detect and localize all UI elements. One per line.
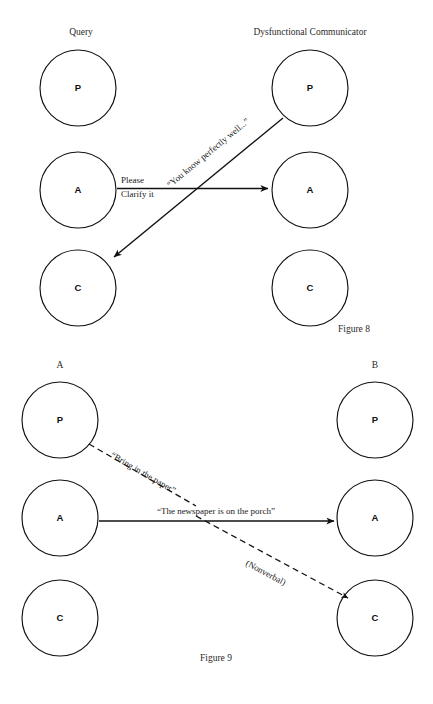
figure-8-left-column-header: Query xyxy=(69,27,93,37)
figure-8-transaction-stimulus-label-line-2: Clarify it xyxy=(121,189,154,199)
figure-9-transaction-nonverbal-child-label: (Nonverbal) xyxy=(244,558,288,587)
figure-8-ego-state-right-adult[interactable]: A xyxy=(272,152,348,228)
figure-9-left-column-header: A xyxy=(57,360,64,370)
figure-8-transaction-stimulus-label-line-1: Please xyxy=(121,175,144,185)
figure-8: Query Dysfunctional Communicator P A C P xyxy=(40,27,370,334)
ego-letter: P xyxy=(75,82,82,93)
ego-letter: P xyxy=(372,414,379,425)
ego-letter: C xyxy=(75,282,82,293)
diagram-page: Query Dysfunctional Communicator P A C P xyxy=(0,0,433,704)
figure-8-ego-state-right-child[interactable]: C xyxy=(272,250,348,326)
figure-8-right-column-header: Dysfunctional Communicator xyxy=(253,27,367,37)
ego-letter: A xyxy=(372,512,379,523)
ego-letter: C xyxy=(307,282,314,293)
figure-8-ego-state-right-parent[interactable]: P xyxy=(272,50,348,126)
figure-9-transaction-ulterior-parent-label: “Bring in the paper” xyxy=(109,450,177,495)
figure-9-ego-state-left-parent[interactable]: P xyxy=(22,382,98,458)
ego-letter: A xyxy=(307,184,314,195)
ego-letter: P xyxy=(57,414,64,425)
figure-8-ego-state-left-parent[interactable]: P xyxy=(40,50,116,126)
figure-9-caption: Figure 9 xyxy=(200,653,232,663)
figure-8-transaction-crossed-response-label: “You know perfectly well...” xyxy=(165,116,251,190)
figure-9-right-column-header: B xyxy=(372,360,378,370)
figures-canvas: Query Dysfunctional Communicator P A C P xyxy=(0,0,433,704)
figure-8-transaction-crossed-response-arrow[interactable] xyxy=(114,118,283,257)
figure-8-caption: Figure 8 xyxy=(338,324,370,334)
ego-letter: A xyxy=(57,512,64,523)
ego-letter: A xyxy=(75,184,82,195)
figure-9-ego-state-left-child[interactable]: C xyxy=(22,580,98,656)
figure-9-ego-state-right-child[interactable]: C xyxy=(337,580,413,656)
figure-9: A B P A C P A xyxy=(22,360,413,663)
figure-8-ego-state-left-adult[interactable]: A xyxy=(40,152,116,228)
figure-9-ego-state-left-adult[interactable]: A xyxy=(22,480,98,556)
figure-8-ego-state-left-child[interactable]: C xyxy=(40,250,116,326)
ego-letter: P xyxy=(307,82,314,93)
figure-9-ego-state-right-adult[interactable]: A xyxy=(337,480,413,556)
figure-9-transaction-nonverbal-child-arrow[interactable] xyxy=(196,516,348,598)
ego-letter: C xyxy=(57,612,64,623)
figure-9-transaction-social-adult-label: “The newspaper is on the porch” xyxy=(157,506,275,516)
figure-9-ego-state-right-parent[interactable]: P xyxy=(337,382,413,458)
ego-letter: C xyxy=(372,612,379,623)
